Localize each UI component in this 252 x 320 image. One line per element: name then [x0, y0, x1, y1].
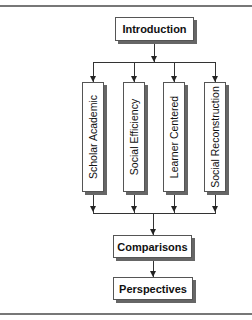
branch-box-learner-centered: Learner Centered — [163, 82, 185, 192]
perspectives-box: Perspectives — [113, 277, 193, 300]
arrow-icon — [212, 206, 218, 212]
comparisons-box: Comparisons — [113, 235, 192, 258]
arrow-icon — [171, 206, 177, 212]
branch-label: Social Reconstruction — [209, 86, 221, 188]
branch-label: Scholar Academic — [87, 95, 99, 179]
top-rule — [0, 5, 252, 7]
bottom-rule — [0, 313, 252, 315]
perspectives-label: Perspectives — [119, 283, 187, 295]
branch-label: Learner Centered — [168, 96, 180, 178]
arrow-icon — [90, 206, 96, 212]
arrow-icon — [131, 206, 137, 212]
branch-box-scholar-academic: Scholar Academic — [82, 82, 104, 192]
branch-box-social-reconstruction: Social Reconstruction — [204, 82, 226, 192]
comparisons-label: Comparisons — [117, 241, 187, 253]
connector-top-horizontal — [93, 62, 216, 63]
branch-box-social-efficiency: Social Efficiency — [123, 82, 145, 192]
introduction-box: Introduction — [115, 17, 194, 41]
branch-label: Social Efficiency — [128, 99, 140, 175]
introduction-label: Introduction — [122, 23, 186, 35]
connector-bottom-horizontal — [93, 213, 216, 214]
